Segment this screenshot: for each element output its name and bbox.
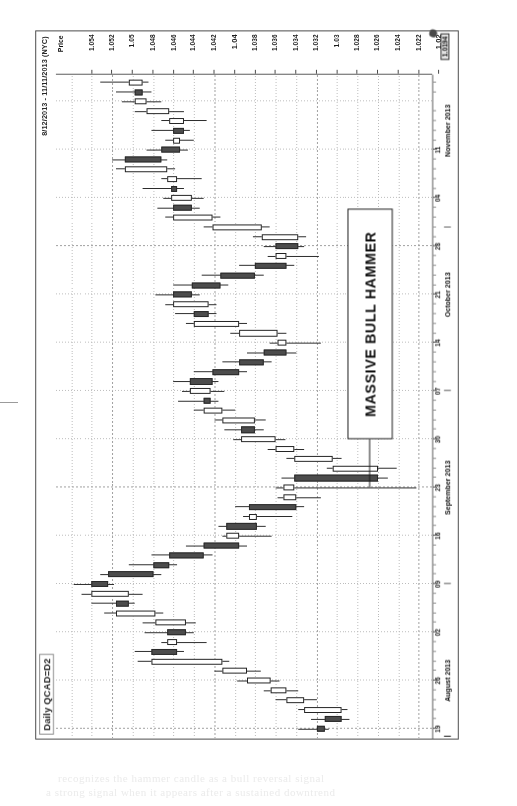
candle-body [173, 301, 208, 307]
price-tick-mark [254, 70, 255, 74]
price-tick-mark [213, 70, 214, 74]
candle [55, 166, 431, 172]
candle-body [332, 465, 377, 471]
price-tick-mark [274, 70, 275, 74]
date-tick-mark-minor [433, 236, 435, 237]
candle-wick [275, 487, 416, 488]
price-tick-label: 1.042 [210, 34, 217, 51]
candle [55, 137, 431, 143]
price-tick-mark [90, 70, 91, 74]
date-tick-mark-minor [433, 660, 435, 661]
candle [55, 687, 431, 693]
candle [55, 108, 431, 114]
price-axis[interactable]: Price 1.0541.0521.051.0481.0461.0441.042… [55, 31, 431, 74]
candle-body [124, 166, 167, 172]
price-tick-mark [131, 70, 132, 74]
price-tick-mark [356, 70, 357, 74]
price-tick-mark [152, 70, 153, 74]
date-tick-mark-minor [433, 574, 435, 575]
price-axis-label: Price [56, 35, 63, 52]
candle-body [169, 552, 204, 558]
date-tick-mark-minor [433, 545, 435, 546]
candle-body [275, 243, 297, 249]
candle [55, 639, 431, 645]
candle [55, 79, 431, 85]
price-tick-mark [172, 70, 173, 74]
annotation-box: MASSIVE BULL HAMMER [347, 209, 392, 439]
candle-body [226, 523, 257, 529]
candle-body [173, 205, 191, 211]
candle-body [173, 128, 183, 134]
date-tick-mark-minor [433, 670, 435, 671]
date-tick-mark-minor [433, 91, 435, 92]
price-tick-label: 1.036 [271, 34, 278, 51]
candle-body [277, 340, 285, 346]
candle [55, 658, 431, 664]
candle [55, 99, 431, 105]
date-tick-mark-minor [433, 429, 435, 430]
candle [55, 610, 431, 616]
date-tick-mark-minor [433, 313, 435, 314]
price-tick-mark [377, 70, 378, 74]
date-tick-mark-minor [433, 139, 435, 140]
price-tick-mark [397, 70, 398, 74]
date-tick-mark [433, 583, 437, 584]
ghost-text-line-2: a strong signal when it appears after a … [46, 786, 335, 798]
candle-body [261, 234, 298, 240]
candle-body [283, 494, 295, 500]
candle-body [150, 658, 222, 664]
candle [55, 562, 431, 568]
date-tick-mark-minor [433, 564, 435, 565]
price-tick-mark [193, 70, 194, 74]
price-tick-mark [315, 70, 316, 74]
candle [55, 157, 431, 163]
date-tick-mark-minor [433, 506, 435, 507]
candle [55, 668, 431, 674]
date-tick-mark [433, 245, 437, 246]
date-tick-mark-minor [433, 284, 435, 285]
candle-body [212, 224, 261, 230]
candle [55, 552, 431, 558]
candle-body [247, 678, 271, 684]
candle-body [191, 282, 220, 288]
candle-body [128, 79, 142, 85]
candle [55, 186, 431, 192]
candle-body [220, 272, 255, 278]
candle [55, 649, 431, 655]
date-tick-mark-minor [433, 410, 435, 411]
price-tick-label: 1.038 [251, 34, 258, 51]
date-tick-mark [433, 197, 437, 198]
chart-frame: Daily QCAD=D2 8/12/2013 - 11/11/2013 (NY… [35, 30, 459, 739]
candle-body [285, 697, 303, 703]
date-tick-mark-minor [433, 217, 435, 218]
price-tick-label: 1.054 [87, 34, 94, 51]
candle-body [150, 649, 177, 655]
date-tick-mark-minor [433, 419, 435, 420]
candle-body [169, 118, 183, 124]
candle-body [249, 514, 257, 520]
chart-date-range: 8/12/2013 - 11/11/2013 (NYC) [40, 36, 49, 135]
candle [55, 629, 431, 635]
date-tick-mark-minor [433, 352, 435, 353]
date-axis[interactable]: 19260209162330071421280411August 2013Sep… [432, 75, 458, 739]
price-tick-label: 1.04 [229, 34, 238, 49]
candle-body [240, 427, 254, 433]
date-tick-mark-minor [433, 159, 435, 160]
date-tick-mark-minor [433, 699, 435, 700]
price-tick-mark [438, 70, 439, 74]
date-tick-mark-minor [433, 467, 435, 468]
candle [55, 504, 431, 510]
candle [55, 591, 431, 597]
candle-body [124, 157, 161, 163]
candle-body [161, 147, 179, 153]
date-tick-mark-minor [433, 255, 435, 256]
candle [55, 726, 431, 732]
candle-body [91, 581, 107, 587]
candle-body [238, 330, 277, 336]
candle-body [91, 591, 128, 597]
candle-body [204, 408, 222, 414]
date-tick-mark-minor [433, 332, 435, 333]
candle-wick [177, 400, 218, 401]
price-tick-label: 1.026 [373, 34, 380, 51]
candle [55, 147, 431, 153]
